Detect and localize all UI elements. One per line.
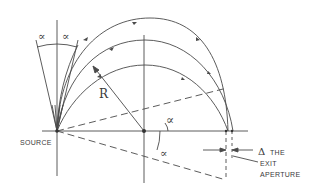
alpha-lower-label: ∝ <box>160 147 167 160</box>
alpha-left-label: ∝ <box>38 30 45 43</box>
upper-dashed-line <box>57 88 227 131</box>
left-alpha-ray <box>36 40 57 131</box>
source-label: SOURCE <box>20 139 52 146</box>
delta-label: Δ <box>258 146 265 157</box>
middle-trajectory <box>57 40 233 131</box>
focusing-diagram: ∝ ∝ R ∝ ∝ SOURCE Δ THE EXIT APERTURE <box>0 0 331 195</box>
center-point <box>142 129 146 133</box>
outer-trajectory <box>57 18 228 131</box>
inner-trajectory <box>57 65 228 131</box>
exit-label-line1: THE <box>270 149 285 156</box>
source-point <box>55 129 59 133</box>
alpha-upper-label: ∝ <box>166 113 174 127</box>
exit-label-line2: EXIT <box>260 160 277 167</box>
exit-label-line3: APERTURE <box>260 171 300 178</box>
alpha-arc-right <box>57 44 77 47</box>
lower-dashed-line <box>57 131 226 180</box>
alpha-right-label: ∝ <box>62 30 69 43</box>
radius-label: R <box>99 87 109 101</box>
alpha-arc-left <box>37 44 57 47</box>
